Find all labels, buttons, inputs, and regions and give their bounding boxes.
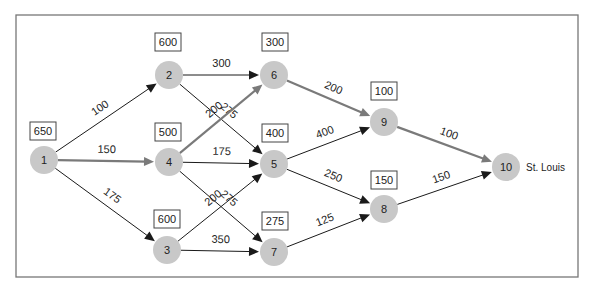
- arrowhead-icon: [249, 71, 259, 80]
- edge-5-9: 400: [287, 123, 370, 159]
- node-id-label: 5: [271, 158, 277, 170]
- edge-1-4: 150: [58, 143, 154, 166]
- edge-weight-label: 200: [202, 187, 224, 208]
- node-3-value-box: 600: [154, 210, 180, 228]
- node-value-label: 275: [266, 215, 284, 227]
- edge-1-3: 175: [55, 168, 155, 241]
- node-6-value-box: 300: [262, 33, 288, 51]
- node-8-value-box: 150: [371, 171, 397, 189]
- arrowhead-icon: [252, 232, 263, 242]
- edge-2-6: 300: [183, 57, 259, 80]
- node-5: 5: [260, 150, 288, 178]
- edge-6-9: 200: [287, 78, 370, 116]
- arrowhead-icon: [481, 171, 492, 180]
- node-id-label: 7: [271, 246, 277, 258]
- edge-weight-label: 175: [212, 145, 231, 157]
- edge-1-2: 100: [56, 83, 157, 152]
- edge-3-7: 350: [181, 233, 259, 256]
- edge-weight-label: 300: [212, 57, 230, 69]
- edge-5-8: 250: [287, 166, 370, 203]
- node-1: 1: [30, 146, 58, 174]
- node-7-value-box: 275: [262, 212, 288, 230]
- node-3: 3: [153, 236, 181, 264]
- network-diagram: 1001501753002752001752752003502004002501…: [0, 0, 593, 296]
- node-2: 2: [155, 61, 183, 89]
- node-value-label: 400: [266, 127, 284, 139]
- arrowhead-icon: [481, 154, 492, 162]
- node-id-label: 2: [166, 69, 172, 81]
- node-value-label: 600: [158, 213, 176, 225]
- edge-weight-label: 250: [323, 166, 345, 184]
- arrowhead-icon: [144, 232, 155, 242]
- arrowhead-icon: [144, 157, 154, 166]
- edge-7-8: 125: [287, 210, 370, 247]
- node-10: 10: [492, 153, 520, 181]
- arrowhead-icon: [359, 127, 370, 135]
- edge-weight-label: 100: [438, 124, 459, 142]
- node-2-value-box: 600: [155, 33, 181, 51]
- edge-weight-label: 200: [323, 78, 345, 96]
- node-value-label: 500: [159, 126, 177, 138]
- edge-9-10: 100: [397, 124, 492, 162]
- edge-weight-label: 150: [97, 143, 116, 155]
- node-id-label: 9: [381, 116, 387, 128]
- node-9: 9: [370, 108, 398, 136]
- edge-weight-label: 125: [314, 210, 335, 228]
- destination-label: St. Louis: [526, 162, 565, 173]
- node-id-label: 1: [41, 154, 47, 166]
- edge-weight-label: 175: [102, 185, 124, 206]
- node-5-value-box: 400: [262, 124, 288, 142]
- edge-4-5: 175: [183, 145, 259, 168]
- arrowhead-icon: [249, 247, 259, 256]
- node-id-label: 6: [271, 69, 277, 81]
- node-id-label: 8: [381, 203, 387, 215]
- node-4-value-box: 500: [155, 123, 181, 141]
- node-9-value-box: 100: [371, 82, 397, 100]
- node-id-label: 3: [164, 244, 170, 256]
- arrowhead-icon: [252, 173, 263, 183]
- node-value-label: 100: [375, 85, 393, 97]
- node-id-label: 4: [166, 156, 172, 168]
- node-6: 6: [260, 61, 288, 89]
- node-value-label: 150: [375, 174, 393, 186]
- node-7: 7: [260, 238, 288, 266]
- node-4: 4: [155, 148, 183, 176]
- node-value-label: 600: [159, 36, 177, 48]
- node-8: 8: [370, 195, 398, 223]
- node-1-value-box: 650: [30, 122, 56, 140]
- arrowhead-icon: [146, 83, 157, 92]
- edge-weight-label: 150: [430, 168, 451, 185]
- edge-weight-label: 100: [89, 97, 111, 117]
- edge-8-10: 150: [397, 168, 492, 204]
- arrowhead-icon: [359, 214, 370, 222]
- node-value-label: 300: [266, 36, 284, 48]
- arrowhead-icon: [249, 159, 259, 168]
- edge-weight-label: 400: [314, 123, 335, 141]
- node-id-label: 10: [500, 161, 512, 173]
- arrowhead-icon: [252, 144, 263, 154]
- edge-weight-label: 350: [211, 233, 230, 245]
- edge-weight-label: 200: [203, 99, 225, 120]
- node-value-label: 650: [34, 125, 52, 137]
